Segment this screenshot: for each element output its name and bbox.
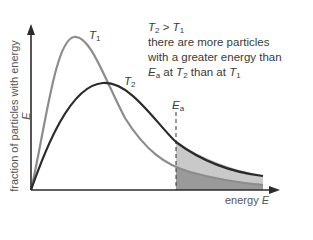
y-axis-label: fraction of particles with energy E (8, 36, 32, 196)
note-line-2: there are more particles (148, 35, 282, 50)
y-axis-arrow-icon (27, 24, 35, 35)
annotation-note: T2 > T1 there are more particles with a … (148, 20, 282, 80)
note-line-1: T2 > T1 (148, 20, 282, 35)
label-t1: T1 (89, 28, 100, 43)
label-ea: Ea (172, 98, 184, 113)
note-line-3: with a greater energy than (148, 50, 282, 65)
label-t2: T2 (124, 74, 135, 89)
x-axis-arrow-icon (269, 186, 280, 194)
note-line-4: Ea at T2 than at T1 (148, 65, 282, 80)
x-axis-label: energy E (225, 194, 269, 206)
